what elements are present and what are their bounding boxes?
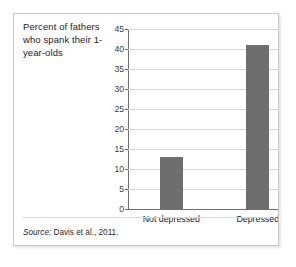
y-tick-label-35: 35	[114, 65, 124, 74]
y-tick-mark-5	[125, 189, 128, 190]
y-tick-label-0: 0	[119, 205, 124, 214]
y-tick-mark-15	[125, 149, 128, 150]
gridline-45	[128, 29, 279, 30]
chart-area: 051015202530354045 Not depressedDepresse…	[102, 20, 274, 241]
source-citation: Davis et al., 2011.	[51, 228, 118, 237]
y-tick-label-40: 40	[114, 45, 124, 54]
figure-panel: Percent of fathers who spank their 1-yea…	[13, 13, 279, 246]
y-tick-label-25: 25	[114, 105, 124, 114]
source-divider	[23, 217, 269, 218]
y-tick-mark-0	[125, 209, 128, 210]
y-axis-line	[128, 29, 129, 209]
source-note: Source: Davis et al., 2011.	[23, 229, 118, 237]
y-tick-label-5: 5	[119, 185, 124, 194]
bar-depressed	[246, 45, 269, 209]
y-tick-mark-25	[125, 109, 128, 110]
y-tick-mark-10	[125, 169, 128, 170]
y-tick-mark-35	[125, 69, 128, 70]
y-tick-mark-45	[125, 29, 128, 30]
bar-not-depressed	[160, 157, 183, 209]
y-tick-mark-40	[125, 49, 128, 50]
gridline-0	[128, 209, 279, 210]
figure-caption: Percent of fathers who spank their 1-yea…	[23, 20, 107, 60]
y-tick-label-30: 30	[114, 85, 124, 94]
y-tick-label-10: 10	[114, 165, 124, 174]
plot-region: 051015202530354045 Not depressedDepresse…	[128, 29, 279, 209]
y-tick-mark-20	[125, 129, 128, 130]
y-tick-label-15: 15	[114, 145, 124, 154]
source-label: Source:	[23, 228, 51, 237]
y-tick-mark-30	[125, 89, 128, 90]
y-tick-label-45: 45	[114, 25, 124, 34]
y-tick-label-20: 20	[114, 125, 124, 134]
